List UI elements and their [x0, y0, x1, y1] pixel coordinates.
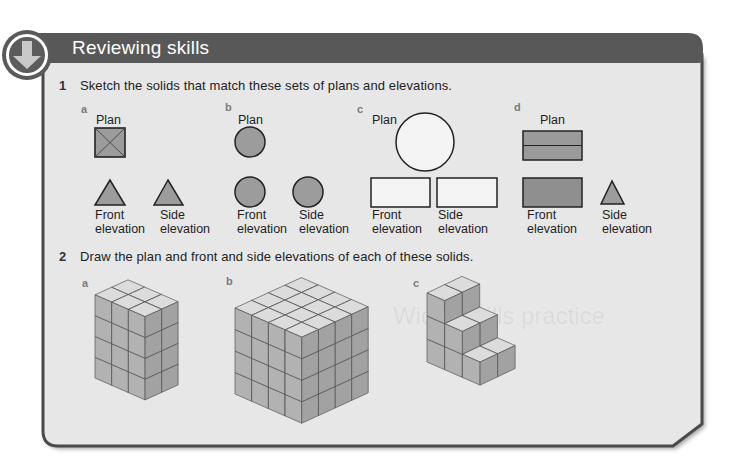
- q2c-staircase-solid-icon: [427, 276, 515, 385]
- q2b-cube-solid-icon: [235, 278, 368, 424]
- q2-solids: [0, 0, 730, 467]
- q2a-cuboid-solid-icon: [95, 280, 178, 400]
- textbook-page: Wider skills practice Reviewing skills 1…: [0, 0, 730, 467]
